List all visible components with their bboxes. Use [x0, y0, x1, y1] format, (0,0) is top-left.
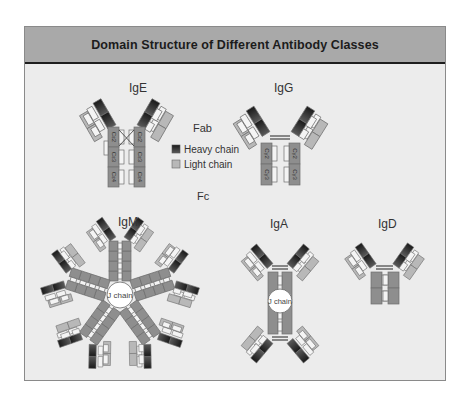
constant-domain: [371, 272, 382, 288]
constant-domain-label: Cγ3: [264, 169, 270, 180]
constant-domain: [109, 251, 118, 261]
j-chain-label: J chain: [268, 297, 292, 306]
constant-domain-label: Cε2: [111, 132, 117, 143]
antibody-label-igd: IgD: [378, 217, 397, 231]
hinge-disulfide: [376, 266, 393, 269]
constant-domain: [109, 261, 118, 271]
constant-domain-pair: [278, 276, 282, 285]
antibody-label-igg: IgG: [274, 81, 293, 95]
heavy-chain-domain: [144, 344, 151, 356]
antibody-igg: Cγ2Cγ3Cγ2Cγ3: [231, 106, 330, 185]
constant-domain-pair: [272, 167, 277, 182]
constant-domain-label: Cγ2: [264, 148, 270, 159]
constant-domain-pair: [118, 273, 122, 279]
constant-domain-pair: [383, 275, 388, 285]
heavy-chain-domain: [41, 284, 55, 294]
constant-domain-pair: [104, 141, 108, 155]
constant-domain-pair: [119, 150, 124, 164]
constant-domain: [109, 271, 118, 281]
fc-label: Fc: [197, 190, 210, 202]
hinge-disulfide: [270, 136, 290, 139]
fab-arm: [129, 341, 151, 369]
constant-domain-pair: [129, 170, 134, 184]
light-chain-domain: [129, 353, 136, 365]
heavy-chain-domain: [89, 356, 96, 368]
constant-domain-pair: [278, 322, 282, 331]
constant-domain: [371, 288, 382, 304]
fab-arm: [89, 341, 111, 369]
constant-domain: [122, 251, 131, 261]
antibody-label-iga: IgA: [270, 217, 288, 231]
constant-domain-pair: [119, 170, 124, 184]
constant-domain-label: Cε2: [137, 132, 143, 143]
constant-domain-label: Cγ3: [292, 169, 298, 180]
fc-stem: Cε2Cε3Cε4: [129, 127, 145, 187]
light-chain-pair-domain: [139, 355, 144, 364]
light-chain-domain: [129, 341, 136, 353]
constant-domain: [388, 272, 399, 288]
constant-domain: [388, 288, 399, 304]
heavy-chain-domain: [157, 333, 171, 344]
heavy-chain-domain: [52, 281, 66, 291]
constant-domain: [122, 261, 131, 271]
constant-domain-pair: [118, 263, 122, 269]
fc-stem: Cγ2Cγ3: [284, 143, 300, 185]
constant-domain-pair: [284, 146, 289, 161]
antibody-diagram: Cε2Cε3Cε4Cε2Cε3Cε4 IgE Cγ2Cγ3Cγ2Cγ3 IgG …: [0, 0, 467, 398]
constant-domain: [109, 241, 118, 251]
legend-label-light: Light chain: [184, 159, 232, 170]
heavy-chain-pair-domain: [98, 357, 103, 367]
constant-domain-label: Cγ2: [292, 148, 298, 159]
light-chain-pair-domain: [103, 355, 108, 364]
constant-domain-label: Cε4: [111, 172, 117, 183]
hinge-disulfide: [272, 266, 288, 269]
heavy-chain-domain: [89, 344, 96, 356]
legend-swatch-light: [172, 160, 180, 168]
constant-domain-label: Cε3: [137, 152, 143, 163]
fc-stem: Cε2Cε3Cε4: [108, 127, 124, 187]
antibody-igm: J chain: [35, 217, 205, 378]
constant-domain-pair: [118, 243, 122, 249]
j-chain-label: J chain: [107, 291, 132, 300]
light-chain-pair-domain: [103, 345, 108, 352]
antibody-iga: J chain: [239, 244, 321, 363]
constant-domain: [122, 241, 131, 251]
antibody-ige: Cε2Cε3Cε4Cε2Cε3Cε4: [78, 99, 176, 187]
constant-domain-pair: [284, 167, 289, 182]
hinge-disulfide: [272, 337, 288, 340]
fc-stem: Cγ2Cγ3: [261, 143, 277, 185]
constant-domain-label: Cε4: [137, 172, 143, 183]
constant-domain-pair: [118, 253, 122, 259]
light-chain-pair-domain: [139, 344, 144, 351]
legend-label-heavy: Heavy chain: [184, 144, 239, 155]
fc-stem: [383, 272, 399, 304]
constant-domain-pair: [272, 146, 277, 161]
antibody-label-ige: IgE: [129, 81, 147, 95]
constant-domain-pair: [383, 291, 388, 301]
constant-domain: [122, 271, 131, 281]
heavy-chain-domain: [144, 356, 151, 368]
fab-label: Fab: [193, 122, 212, 134]
light-chain-domain: [67, 318, 81, 329]
antibody-label-igm: IgM: [118, 215, 138, 229]
constant-domain-label: Cε3: [111, 152, 117, 163]
legend-swatch-heavy: [172, 145, 180, 153]
heavy-chain-pair-domain: [98, 346, 103, 355]
antibody-igd: [343, 243, 427, 304]
constant-domain-pair: [129, 150, 134, 164]
